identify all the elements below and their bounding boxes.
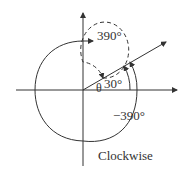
label-clockwise: Clockwise [98, 148, 153, 163]
arc-30-inner [124, 66, 130, 90]
label-neg-390: −390° [113, 108, 145, 123]
label-30: 30° [104, 76, 122, 91]
solid-rotation-path [35, 41, 137, 142]
label-390: 390° [97, 28, 122, 43]
angle-diagram: 390° θ 30° −390° Clockwise [0, 0, 185, 177]
arc-30-outer [130, 62, 137, 90]
label-theta: θ [96, 81, 102, 95]
